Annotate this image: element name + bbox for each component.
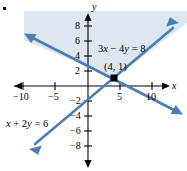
intersection-point-marker: [111, 75, 118, 82]
y-tick-label--2: −2: [70, 96, 81, 106]
y-axis-label: y: [92, 2, 96, 12]
x-axis: [14, 82, 170, 90]
x-tick-label-5: 5: [117, 92, 122, 102]
x-axis-arrow-left: [14, 82, 22, 89]
y-tick-label--6: −6: [70, 126, 81, 136]
graph-figure: x y −10 −5 5 10 8 6 4 2 −2 −4 −6 −8 3x −…: [0, 0, 187, 171]
x-tick-label--10: −10: [13, 92, 29, 102]
equation-label-3x-minus-4y: 3x − 4y = 8: [98, 44, 145, 55]
x-tick-label--5: −5: [48, 92, 59, 102]
eq2-mid: + 2: [11, 118, 27, 129]
line1-arrow-lower-left: [29, 146, 42, 155]
y-tick-label-6: 6: [75, 36, 80, 46]
eq1-mid: − 4: [108, 43, 124, 54]
coordinate-plane-svg: [0, 0, 187, 171]
x-axis-arrow-right: [162, 82, 170, 89]
intersection-point-label: (4, 1): [104, 62, 127, 73]
y-tick-label--8: −8: [70, 141, 81, 151]
y-tick-label-8: 8: [75, 21, 80, 31]
y-tick-label-4: 4: [75, 51, 80, 61]
x-axis-label: x: [172, 81, 176, 91]
x-tick-label-10: 10: [146, 92, 156, 102]
y-tick-label--4: −4: [70, 111, 81, 121]
eq1-rhs: = 8: [129, 43, 145, 54]
eq2-rhs: = 6: [32, 118, 48, 129]
y-axis-arrow-down: [84, 160, 91, 168]
y-tick-label-2: 2: [75, 66, 80, 76]
equation-label-x-plus-2y: x + 2y = 6: [6, 119, 48, 130]
